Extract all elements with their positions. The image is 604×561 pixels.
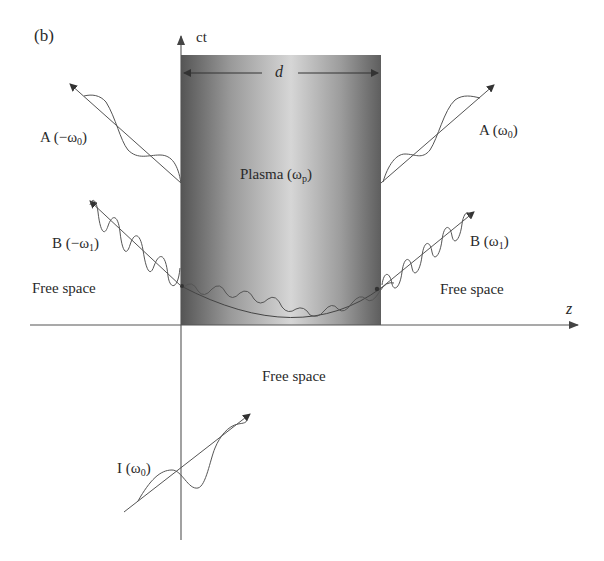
wave-B-right — [381, 212, 474, 288]
free-space-left-label: Free space — [32, 281, 96, 296]
panel-label: (b) — [34, 27, 54, 44]
plasma-slab — [181, 55, 381, 325]
slab-width-label: d — [275, 64, 283, 80]
wave-B-left — [90, 200, 181, 286]
z-axis-label: z — [566, 301, 572, 317]
wave-A-right-label: A (ω0) — [479, 123, 518, 140]
wave-A-right — [381, 85, 494, 183]
incident-wave-label: I (ω0) — [117, 461, 151, 478]
wave-A-left-label: A (−ω0) — [40, 130, 87, 147]
ct-axis-label: ct — [196, 30, 207, 45]
wave-B-right-label: B (ω1) — [470, 234, 509, 251]
free-space-right-label: Free space — [440, 282, 504, 297]
wave-B-left-label: B (−ω1) — [52, 236, 99, 253]
plasma-label: Plasma (ωp) — [240, 167, 312, 184]
figure: (b) ct z d Plasma (ωp) A (−ω0) A (ω0) B … — [0, 0, 604, 561]
free-space-bottom-label: Free space — [262, 369, 326, 384]
